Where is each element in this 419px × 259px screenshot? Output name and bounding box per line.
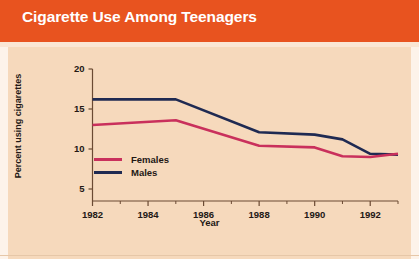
y-axis-tick-label: 5	[59, 183, 85, 194]
legend-label-females: Females	[131, 154, 169, 165]
legend-swatch-males	[94, 171, 122, 174]
x-axis-title: Year	[0, 217, 419, 228]
legend-item-males: Males	[94, 166, 169, 179]
chart-legend: Females Males	[94, 153, 169, 179]
series-line-males	[93, 99, 399, 154]
y-axis-tick-label: 20	[59, 63, 85, 74]
bottom-rule	[0, 255, 419, 256]
series-lines	[93, 99, 399, 157]
y-axis-tick-label: 10	[59, 143, 85, 154]
legend-label-males: Males	[131, 167, 157, 178]
y-axis-tick-label: 15	[59, 103, 85, 114]
title-banner: Cigarette Use Among Teenagers	[0, 0, 419, 42]
legend-item-females: Females	[94, 153, 169, 166]
x-axis-ticks	[93, 201, 399, 206]
plot-area: 2015105 198219841986198819901992 Percent…	[0, 47, 419, 252]
legend-swatch-females	[94, 158, 122, 161]
chart-figure: Cigarette Use Among Teenagers 2015105 19…	[0, 0, 419, 259]
y-axis-title: Percent using cigarettes	[13, 66, 23, 186]
chart-title: Cigarette Use Among Teenagers	[22, 8, 257, 26]
